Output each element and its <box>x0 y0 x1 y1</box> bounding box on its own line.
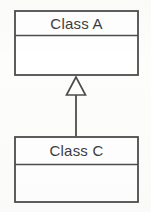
hollow-triangle-arrowhead <box>67 77 86 95</box>
generalization-connector[interactable] <box>67 77 86 137</box>
uml-class-diagram-canvas: Class A Class C <box>0 0 151 212</box>
class-c-name-label: Class C <box>15 143 138 158</box>
class-a-name-label: Class A <box>15 16 138 31</box>
